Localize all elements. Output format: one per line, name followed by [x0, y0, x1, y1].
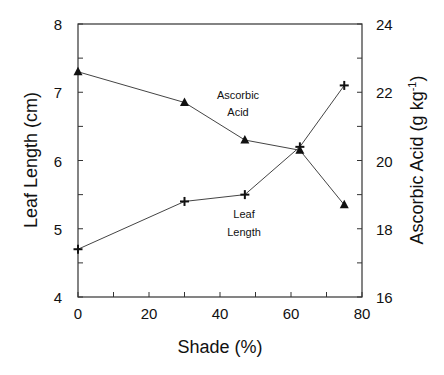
- right-y-tick-label: 16: [376, 289, 393, 306]
- x-tick-label: 80: [354, 305, 371, 322]
- right-y-tick-label: 22: [376, 84, 393, 101]
- triangle-marker-icon: [240, 135, 249, 144]
- plus-marker-icon: [74, 245, 83, 254]
- right-y-tick-label: 18: [376, 221, 393, 238]
- right-y-tick-label: 20: [376, 153, 393, 170]
- plot-border: [78, 24, 362, 297]
- x-tick-label: 0: [74, 305, 82, 322]
- right-y-axis-title: Ascorbic Acid (g kg-1): [406, 76, 427, 245]
- annotation-ascorbic-acid-line2: Acid: [227, 106, 248, 118]
- axis-ticks: [78, 24, 362, 297]
- annotation-leaf-length-line2: Length: [227, 226, 261, 238]
- dual-axis-line-chart: 020406080456781618202224 Ascorbic Acid L…: [0, 0, 444, 375]
- x-tick-label: 60: [283, 305, 300, 322]
- left-y-tick-label: 5: [54, 221, 62, 238]
- annotation-leaf-length-line1: Leaf: [233, 208, 255, 220]
- x-axis-title: Shade (%): [177, 337, 262, 357]
- axis-tick-labels: 020406080456781618202224: [54, 16, 393, 322]
- x-tick-label: 40: [212, 305, 229, 322]
- series-line-ascorbic-acid: [78, 72, 344, 205]
- left-y-tick-label: 6: [54, 153, 62, 170]
- plus-marker-icon: [180, 197, 189, 206]
- x-tick-label: 20: [141, 305, 158, 322]
- plot-frame: [78, 24, 362, 297]
- plus-marker-icon: [340, 81, 349, 90]
- series-lines: [78, 72, 344, 249]
- series-line-leaf-length: [78, 85, 344, 249]
- annotation-ascorbic-acid-line1: Ascorbic: [217, 89, 260, 101]
- left-y-axis-title: Leaf Length (cm): [21, 92, 41, 228]
- left-y-tick-label: 4: [54, 289, 62, 306]
- right-y-tick-label: 24: [376, 16, 393, 33]
- left-y-tick-label: 7: [54, 84, 62, 101]
- left-y-tick-label: 8: [54, 16, 62, 33]
- triangle-marker-icon: [74, 67, 83, 76]
